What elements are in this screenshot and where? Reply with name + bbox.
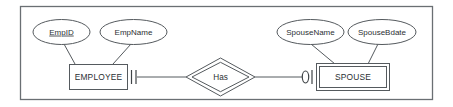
attribute-empid-label: EmpID bbox=[49, 28, 74, 37]
attribute-spousename-label: SpouseName bbox=[286, 28, 335, 37]
relationship-has-label: Has bbox=[213, 73, 228, 82]
attribute-spousebdate-label: SpouseBdate bbox=[358, 28, 407, 37]
entity-employee-label: EMPLOYEE bbox=[75, 72, 123, 82]
er-diagram-canvas: EmpID EmpName EMPLOYEE Has SpouseName Sp… bbox=[0, 0, 453, 107]
attribute-empname-label: EmpName bbox=[115, 28, 153, 37]
entity-spouse-label: SPOUSE bbox=[335, 72, 371, 82]
